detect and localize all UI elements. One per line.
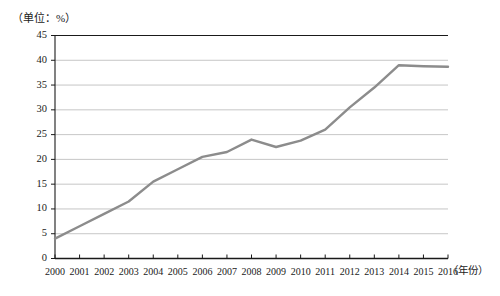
y-tick-label: 45	[21, 30, 47, 40]
y-tick-label: 10	[21, 203, 47, 213]
y-axis-ticks	[51, 36, 55, 259]
y-tick-label: 25	[21, 129, 47, 139]
line-chart: （单位：%） 051015202530354045 20002001200220…	[0, 0, 500, 296]
y-tick-label: 40	[21, 55, 47, 65]
x-axis-title: （年份）	[448, 262, 488, 277]
y-tick-label: 30	[21, 104, 47, 114]
plot-area	[0, 0, 500, 296]
y-tick-label: 0	[21, 253, 47, 263]
data-series-line	[55, 65, 448, 238]
y-tick-label: 20	[21, 154, 47, 164]
y-tick-label: 15	[21, 179, 47, 189]
axis-frame	[55, 36, 448, 259]
y-tick-label: 5	[21, 228, 47, 238]
y-tick-label: 35	[21, 80, 47, 90]
